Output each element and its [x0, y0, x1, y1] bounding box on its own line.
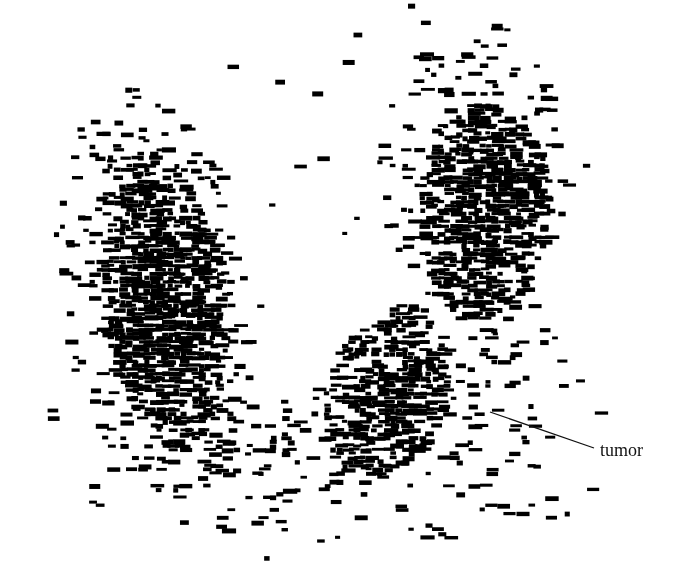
scintigraphy-figure: tumor — [0, 0, 684, 580]
tumor-annotation-label: tumor — [600, 441, 643, 459]
scintigraphy-scan-image — [0, 0, 684, 580]
